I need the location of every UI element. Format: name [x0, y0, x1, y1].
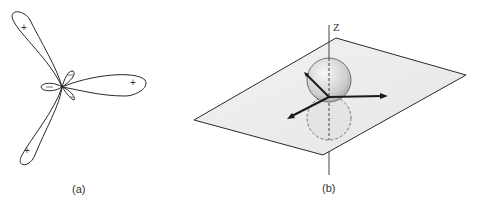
caption-b: (b) [322, 182, 335, 194]
figure-canvas [0, 0, 481, 207]
lobe-sign-lower-left: + [24, 146, 30, 156]
z-axis-label: Z [333, 21, 340, 33]
vector-right [329, 96, 383, 97]
lobe-sign-upper-left: + [21, 23, 27, 33]
plane-diagram [194, 25, 466, 175]
lobe-sign-right: + [130, 78, 136, 88]
lobe-upper-left [12, 12, 62, 87]
caption-a: (a) [72, 183, 85, 195]
polar-orbital-plot [12, 12, 146, 165]
